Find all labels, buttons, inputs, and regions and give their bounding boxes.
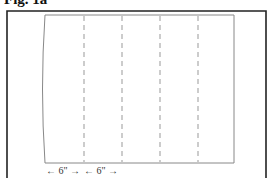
diagram-canvas xyxy=(0,0,270,178)
outer-frame xyxy=(7,11,266,178)
paper-panel xyxy=(43,15,235,163)
dimension-label-2: ← 6" → xyxy=(84,165,118,177)
dimension-label-1: ← 6" → xyxy=(46,165,80,177)
